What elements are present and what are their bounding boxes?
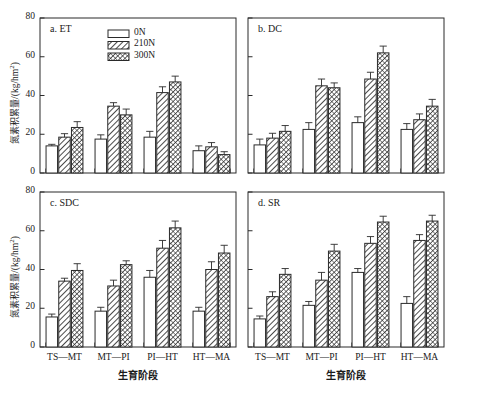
bar-b-TS—MT-300N [279, 131, 291, 173]
bar-b-HT—MA-0N [401, 129, 413, 173]
bar-b-PI—HT-0N [352, 123, 364, 173]
x-category-c-0: TS—MT [37, 352, 93, 362]
bar-a-PI—HT-210N [157, 93, 169, 173]
bar-a-HT—MA-300N [218, 155, 230, 173]
bar-b-PI—HT-300N [377, 53, 389, 173]
bar-c-PI—HT-300N [169, 228, 181, 347]
panel-title-d: d. SR [258, 197, 338, 208]
bar-b-MT—PI-210N [316, 86, 328, 173]
bar-d-PI—HT-210N [365, 243, 377, 347]
bar-a-TS—MT-210N [59, 137, 71, 173]
x-category-d-2: PI—HT [343, 352, 399, 362]
bar-a-HT—MA-0N [193, 151, 205, 173]
bar-b-HT—MA-210N [414, 120, 426, 173]
bar-d-PI—HT-300N [377, 222, 389, 347]
bar-d-HT—MA-210N [414, 240, 426, 347]
y-tick-label-a-0: 0 [7, 166, 35, 176]
bar-c-TS—MT-0N [46, 317, 58, 347]
legend-label-300N: 300N [134, 50, 180, 60]
x-category-c-2: PI—HT [135, 352, 191, 362]
x-category-d-0: TS—MT [245, 352, 301, 362]
bar-b-MT—PI-0N [303, 129, 315, 173]
x-category-c-3: HT—MA [184, 352, 240, 362]
x-category-d-1: MT—PI [294, 352, 350, 362]
y-tick-label-c-20: 20 [7, 301, 35, 311]
x-category-d-3: HT—MA [392, 352, 448, 362]
bar-a-MT—PI-0N [95, 139, 107, 173]
y-tick-label-a-60: 60 [7, 50, 35, 60]
bar-c-MT—PI-300N [120, 265, 132, 347]
bar-c-HT—MA-0N [193, 311, 205, 347]
bar-d-MT—PI-300N [328, 251, 340, 347]
bar-d-PI—HT-0N [352, 272, 364, 347]
bar-d-HT—MA-0N [401, 303, 413, 347]
bar-a-PI—HT-300N [169, 82, 181, 173]
y-tick-label-c-60: 60 [7, 224, 35, 234]
bar-b-HT—MA-300N [426, 106, 438, 173]
bar-d-MT—PI-0N [303, 305, 315, 347]
bar-a-HT—MA-210N [206, 147, 218, 173]
bar-c-MT—PI-210N [108, 286, 120, 347]
bar-a-TS—MT-300N [71, 127, 83, 173]
figure-root: 氮素积累量/(kg/hm2) 氮素积累量/(kg/hm2) 生育阶段 生育阶段 [0, 0, 489, 396]
y-tick-label-c-80: 80 [7, 185, 35, 195]
x-category-c-1: MT—PI [86, 352, 142, 362]
bar-b-MT—PI-300N [328, 88, 340, 173]
bar-c-MT—PI-0N [95, 311, 107, 347]
panel-title-a: a. ET [50, 23, 130, 34]
bar-d-TS—MT-300N [279, 274, 291, 347]
bar-c-PI—HT-0N [144, 277, 156, 347]
bar-a-MT—PI-210N [108, 106, 120, 173]
bar-a-MT—PI-300N [120, 115, 132, 173]
bar-b-TS—MT-0N [254, 145, 265, 173]
bar-b-TS—MT-210N [267, 138, 279, 173]
bar-b-PI—HT-210N [365, 79, 377, 173]
bar-d-HT—MA-300N [426, 221, 438, 347]
legend-label-0N: 0N [134, 27, 180, 37]
y-tick-label-c-40: 40 [7, 263, 35, 273]
panel-title-c: c. SDC [50, 197, 130, 208]
panel-title-b: b. DC [258, 23, 338, 34]
bar-d-TS—MT-0N [254, 319, 265, 347]
bar-d-MT—PI-210N [316, 280, 328, 347]
bar-a-TS—MT-0N [46, 146, 58, 173]
y-tick-label-a-20: 20 [7, 127, 35, 137]
bar-d-TS—MT-210N [267, 297, 279, 347]
bar-c-TS—MT-210N [59, 281, 71, 347]
bar-c-HT—MA-210N [206, 270, 218, 348]
y-tick-label-a-40: 40 [7, 89, 35, 99]
legend-label-210N: 210N [134, 38, 180, 48]
y-tick-label-a-80: 80 [7, 11, 35, 21]
bar-c-PI—HT-210N [157, 248, 169, 347]
bar-c-TS—MT-300N [71, 270, 83, 347]
legend-swatch-300N [108, 53, 129, 61]
bar-a-PI—HT-0N [144, 137, 156, 173]
legend-swatch-210N [108, 42, 129, 50]
y-tick-label-c-0: 0 [7, 340, 35, 350]
bar-c-HT—MA-300N [218, 253, 230, 347]
